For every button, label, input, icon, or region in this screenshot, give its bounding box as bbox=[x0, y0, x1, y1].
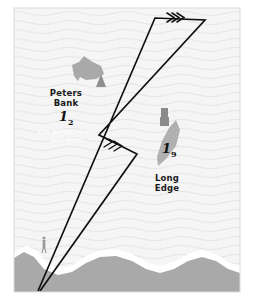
label-long-edge-line2: Edge bbox=[144, 183, 190, 193]
label-long-edge-line1: Long bbox=[144, 173, 190, 183]
faint-annotation: the point where surf lines bbox=[36, 129, 98, 144]
depth-value-peters-bank: 1 bbox=[59, 109, 68, 124]
depth-subscript-long-edge: 9 bbox=[171, 149, 177, 159]
depth-mark-long-edge: 19 bbox=[162, 142, 177, 161]
map-body bbox=[14, 8, 240, 292]
depth-subscript-peters-bank: 2 bbox=[68, 117, 74, 127]
label-peters-bank: Peters Bank bbox=[43, 88, 89, 108]
label-peters-bank-line2: Bank bbox=[43, 98, 89, 108]
label-peters-bank-line1: Peters bbox=[43, 88, 89, 98]
faint-annotation-line2: surf lines bbox=[36, 137, 98, 145]
map-canvas bbox=[0, 0, 254, 302]
marker-post-beacon bbox=[160, 108, 169, 126]
depth-mark-peters-bank: 12 bbox=[59, 110, 74, 129]
wave-texture bbox=[14, 8, 240, 292]
label-long-edge: Long Edge bbox=[144, 173, 190, 193]
depth-value-long-edge: 1 bbox=[162, 141, 171, 156]
nautical-chart-figure: Peters Bank Long Edge 12 19 the point wh… bbox=[0, 0, 254, 302]
